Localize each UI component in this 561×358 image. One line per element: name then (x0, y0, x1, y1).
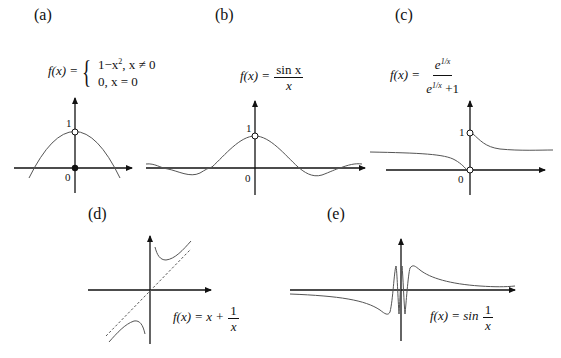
formula-a: f(x) = { 1−x2, x ≠ 0 0, x = 0 (48, 53, 155, 90)
formula-e: f(x) = sin 1 x (430, 302, 494, 333)
denominator-b: x (284, 78, 294, 93)
panel-label-a: (a) (34, 6, 52, 24)
numerator-b: sin x (274, 62, 303, 78)
upper-branch-d (155, 241, 191, 260)
tick-0-b: 0 (245, 172, 251, 184)
filled-dot-a (72, 165, 78, 171)
fraction-c: e1/x e1/x +1 (424, 52, 461, 100)
formula-lhs-a: f(x) = (48, 63, 78, 78)
panel-label-d: (d) (88, 205, 107, 223)
left-branch-c (370, 152, 467, 170)
panel-label-c: (c) (395, 6, 413, 24)
graph-a (14, 98, 132, 193)
right-branch-c (473, 134, 553, 150)
tick-1-b: 1 (246, 122, 252, 134)
denominator-exponent-c: 1/x (432, 81, 442, 90)
formula-lhs-e: f(x) = sin (430, 308, 478, 323)
fraction-d: 1 x (228, 303, 239, 334)
formula-b: f(x) = sin x x (240, 62, 304, 93)
sinc-curve-b (146, 136, 362, 176)
numerator-d: 1 (228, 303, 239, 319)
graph-b (146, 101, 365, 195)
numerator-e: 1 (483, 302, 494, 318)
denominator-e: x (483, 318, 493, 333)
numerator-exponent-c: 1/x (441, 57, 451, 66)
fraction-b: sin x x (274, 62, 303, 93)
panel-label-e: (e) (327, 205, 345, 223)
formula-lhs-b: f(x) = (240, 68, 270, 83)
open-circle-top-c (467, 130, 473, 136)
tick-1-c: 1 (459, 126, 465, 138)
open-circle-a (72, 129, 78, 135)
case1-expr: 1−x (98, 57, 118, 72)
lower-branch-d (109, 321, 145, 342)
formula-lhs-c: f(x) = (390, 67, 420, 82)
open-circle-b (252, 133, 258, 139)
formula-d: f(x) = x + 1 x (173, 303, 240, 334)
panel-label-b: (b) (215, 6, 234, 24)
case2: 0, x = 0 (98, 73, 155, 90)
formula-c: f(x) = e1/x e1/x +1 (390, 52, 462, 100)
case1-condition: , x ≠ 0 (122, 57, 155, 72)
denominator-d: x (229, 319, 239, 334)
open-circle-origin-c (467, 167, 473, 173)
formula-lhs-d: f(x) = x + (173, 309, 224, 324)
brace-icon: { (82, 56, 91, 88)
tick-0-a: 0 (65, 171, 71, 183)
fraction-e: 1 x (483, 302, 494, 333)
tick-0-c: 0 (458, 173, 464, 185)
tick-1-a: 1 (66, 117, 72, 129)
denominator-tail-c: +1 (445, 82, 459, 97)
formula-cases-a: 1−x2, x ≠ 0 0, x = 0 (98, 53, 155, 90)
